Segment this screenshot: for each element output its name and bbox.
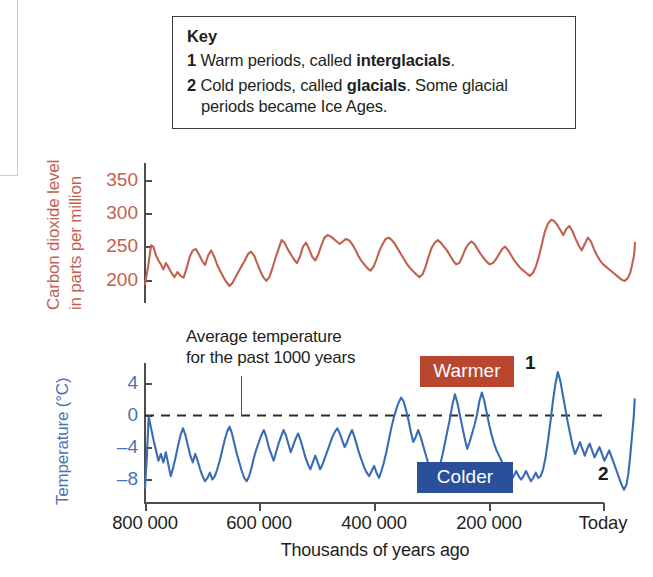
x-axis-title: Thousands of years ago (145, 540, 605, 561)
x-tick-200000 (489, 503, 491, 511)
temperature-line-chart (145, 355, 635, 500)
x-tick-label-800000: 800 000 (85, 512, 205, 534)
warmer-badge: Warmer (420, 356, 514, 387)
key-item-2: 2 Cold periods, called glacials. Some gl… (187, 75, 563, 96)
marker-label-1: 1 (525, 352, 536, 374)
co2-tick-label-300: 300 (78, 202, 138, 224)
co2-axis-title-line1: Carbon dioxide level (44, 160, 64, 310)
marker-label-2: 2 (598, 463, 609, 485)
key-box: Key 1 Warm periods, called interglacials… (172, 16, 576, 129)
x-tick-label-200000: 200 000 (429, 512, 549, 534)
x-tick-label-400000: 400 000 (314, 512, 434, 534)
key-item-1-text: Warm periods, called (200, 51, 356, 69)
co2-tick-label-200: 200 (78, 269, 138, 291)
temp-tick-label-4: 4 (94, 372, 138, 394)
key-item-1-suffix: . (451, 51, 455, 69)
key-item-2-continuation: periods became Ice Ages. (187, 96, 563, 117)
climate-figure: Key 1 Warm periods, called interglacials… (0, 0, 653, 577)
page-edge-rule-vertical (17, 0, 18, 176)
x-tick-label-today: Today (553, 512, 653, 534)
temp-tick-label-minus8: –8 (94, 468, 138, 490)
x-tick-label-600000: 600 000 (199, 512, 319, 534)
key-title: Key (187, 25, 563, 47)
key-item-2-suffix: . Some glacial (406, 76, 508, 94)
annotation-line-2: for the past 1000 years (186, 347, 355, 368)
co2-series-line (145, 220, 635, 286)
annotation-line-1: Average temperature (186, 326, 355, 347)
x-tick-800000 (145, 503, 147, 511)
x-tick-400000 (374, 503, 376, 511)
key-item-1: 1 Warm periods, called interglacials. (187, 50, 563, 71)
co2-tick-label-350: 350 (78, 169, 138, 191)
temperature-series-line (145, 372, 635, 490)
temp-tick-label-minus4: –4 (94, 436, 138, 458)
colder-badge: Colder (417, 462, 513, 493)
temperature-axis-title: Temperature (°C) (53, 378, 73, 505)
key-item-2-term: glacials (347, 76, 406, 94)
x-tick-today (603, 503, 605, 511)
key-item-2-number: 2 (187, 76, 196, 94)
page-edge-rule-horizontal (0, 175, 18, 176)
annotation-leader-line (241, 376, 242, 416)
key-item-1-term: interglacials (356, 51, 450, 69)
co2-tick-label-250: 250 (78, 235, 138, 257)
key-item-1-number: 1 (187, 51, 196, 69)
co2-line-chart (145, 160, 635, 300)
average-temperature-annotation: Average temperature for the past 1000 ye… (186, 326, 355, 369)
key-item-2-text: Cold periods, called (200, 76, 346, 94)
x-tick-600000 (259, 503, 261, 511)
temp-tick-label-0: 0 (94, 404, 138, 426)
